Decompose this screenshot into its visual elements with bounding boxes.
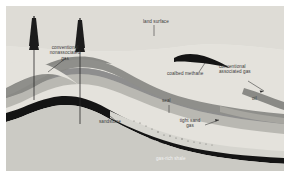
- cross-section-artwork: [6, 6, 284, 171]
- label-seal: seal: [162, 98, 171, 103]
- label-tight-sand-gas: tight sand gas: [174, 118, 206, 129]
- derrick-mast-left: [33, 16, 34, 20]
- label-gas-rich-shale: gas-rich shale: [156, 156, 186, 161]
- derrick-base-left: [29, 46, 39, 50]
- label-coalbed-methane: coalbed methane: [167, 71, 203, 76]
- wellbore-left: [34, 50, 35, 100]
- label-land-surface: land surface: [143, 19, 169, 24]
- wellbore-right: [80, 52, 81, 124]
- derrick-mast-right: [79, 18, 80, 22]
- label-sandstone: sandstone: [99, 119, 121, 124]
- figure-canvas: land surface conventional nonassociated …: [0, 0, 290, 177]
- label-conventional-nonassociated-gas: conventional nonassociated gas: [43, 45, 87, 61]
- cross-section-scene: land surface conventional nonassociated …: [6, 6, 284, 171]
- label-oil: oil: [252, 96, 257, 101]
- label-conventional-associated-gas: conventional associated gas: [219, 64, 269, 75]
